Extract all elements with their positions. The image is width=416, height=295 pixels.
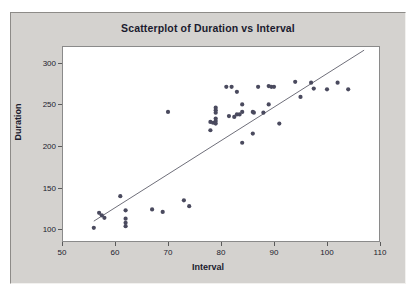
data-point [124,208,128,212]
data-point [325,87,329,91]
x-tick-label: 70 [164,248,173,257]
x-axis-title: Interval [0,262,416,272]
y-tick-mark [58,229,62,230]
y-tick-label: 150 [30,183,56,192]
data-point [267,102,271,106]
data-point [309,81,313,85]
data-point [150,207,154,211]
data-point [214,121,218,125]
x-tick-label: 110 [374,248,387,257]
data-point [92,226,96,230]
data-point [240,102,244,106]
x-tick-label: 50 [58,248,67,257]
plot-area [62,46,380,242]
x-tick-mark [115,242,116,246]
data-point [256,85,260,89]
data-point [298,95,302,99]
data-point [293,80,297,84]
x-tick-mark [221,242,222,246]
data-point [346,87,350,91]
data-point [102,216,106,220]
chart-title: Scatterplot of Duration vs Interval [0,22,416,34]
figure-canvas: Scatterplot of Duration vs Interval Dura… [0,0,416,295]
y-tick-label: 300 [30,58,56,67]
x-tick-mark [327,242,328,246]
data-point [312,86,316,90]
data-point [124,217,128,221]
y-tick-mark [58,63,62,64]
data-point [166,110,170,114]
data-point [251,131,255,135]
data-point [224,85,228,89]
data-point [187,204,191,208]
x-tick-mark [380,242,381,246]
scatter-points [92,80,351,230]
data-point [227,114,231,118]
data-point [261,111,265,115]
y-tick-mark [58,146,62,147]
y-tick-label: 200 [30,142,56,151]
y-tick-label: 250 [30,100,56,109]
y-tick-mark [58,188,62,189]
y-tick-mark [58,104,62,105]
y-tick-label: 100 [30,225,56,234]
data-point [124,224,128,228]
data-point [277,121,281,125]
data-point [240,141,244,145]
x-tick-mark [62,242,63,246]
regression-line [94,50,364,221]
data-point [214,111,218,115]
data-point [208,128,212,132]
x-tick-label: 100 [320,248,333,257]
data-point [118,194,122,198]
data-point [336,81,340,85]
x-tick-mark [168,242,169,246]
x-tick-mark [274,242,275,246]
data-point [161,210,165,214]
data-point [182,198,186,202]
data-point [252,111,256,115]
data-point [240,110,244,114]
y-axis-title: Duration [13,104,23,141]
data-point [235,90,239,94]
data-point [272,85,276,89]
data-point [230,85,234,89]
x-tick-label: 60 [111,248,120,257]
x-tick-label: 80 [217,248,226,257]
x-tick-label: 90 [270,248,279,257]
